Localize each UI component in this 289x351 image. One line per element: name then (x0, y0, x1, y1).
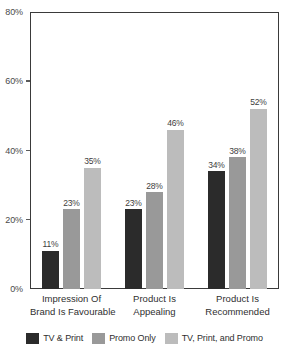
bar-chart: 0%20%40%60%80% 11%23%35%23%28%46%34%38%5… (0, 0, 289, 351)
bar-slot: 52% (250, 12, 267, 289)
legend-swatch (165, 333, 178, 344)
y-axis-tick-label: 40% (5, 145, 23, 157)
y-axis-tick: 80% (0, 6, 30, 18)
bar-value-label: 34% (208, 160, 224, 170)
y-axis-tick-label: 60% (5, 75, 23, 87)
bar-slot: 35% (84, 12, 101, 289)
bar (250, 109, 267, 289)
chart-legend: TV & PrintPromo OnlyTV, Print, and Promo (0, 329, 289, 347)
bar-value-label: 52% (250, 97, 266, 107)
category-label: Product IsRecommended (196, 292, 279, 318)
bar (146, 192, 163, 289)
bar-slot: 28% (146, 12, 163, 289)
bar (125, 209, 142, 289)
legend-item[interactable]: TV, Print, and Promo (165, 333, 263, 344)
category-label: Impression OfBrand Is Favourable (30, 292, 113, 318)
bar-slot: 34% (208, 12, 225, 289)
legend-item[interactable]: Promo Only (92, 333, 156, 344)
category-label-line: Product Is (196, 292, 279, 305)
legend-label: TV, Print, and Promo (182, 333, 263, 343)
bar (208, 171, 225, 289)
bar-value-label: 46% (167, 118, 183, 128)
bars-layer: 11%23%35%23%28%46%34%38%52% (30, 12, 279, 289)
category-label-line: Brand Is Favourable (30, 305, 113, 318)
y-axis-tick: 40% (0, 145, 30, 157)
bar-value-label: 11% (43, 239, 59, 249)
legend-swatch (92, 333, 105, 344)
bar-slot: 23% (125, 12, 142, 289)
y-axis-tick: 0% (0, 283, 30, 295)
bar-value-label: 38% (229, 146, 245, 156)
y-axis-tick-label: 80% (5, 6, 23, 18)
bar-value-label: 28% (146, 181, 162, 191)
bar (167, 130, 184, 289)
y-axis: 0%20%40%60%80% (0, 0, 30, 301)
legend-item[interactable]: TV & Print (26, 333, 83, 344)
category-label-line: Appealing (113, 305, 196, 318)
bar-slot: 11% (42, 12, 59, 289)
legend-label: Promo Only (109, 333, 156, 343)
y-axis-tick: 20% (0, 214, 30, 226)
bar (84, 168, 101, 289)
bar-value-label: 35% (84, 156, 100, 166)
legend-label: TV & Print (43, 333, 83, 343)
bar-group: 11%23%35% (30, 12, 113, 289)
bar (42, 251, 59, 289)
bar (63, 209, 80, 289)
category-label: Product IsAppealing (113, 292, 196, 318)
bar-value-label: 23% (125, 198, 141, 208)
category-label-line: Product Is (113, 292, 196, 305)
category-axis: Impression OfBrand Is FavourableProduct … (30, 292, 279, 324)
bar (229, 157, 246, 289)
category-label-line: Impression Of (30, 292, 113, 305)
y-axis-tick: 60% (0, 75, 30, 87)
bar-slot: 23% (63, 12, 80, 289)
bar-slot: 46% (167, 12, 184, 289)
y-axis-tick-label: 0% (10, 283, 23, 295)
bar-group: 23%28%46% (113, 12, 196, 289)
legend-swatch (26, 333, 39, 344)
bar-value-label: 23% (63, 198, 79, 208)
y-axis-tick-label: 20% (5, 214, 23, 226)
category-label-line: Recommended (196, 305, 279, 318)
bar-slot: 38% (229, 12, 246, 289)
bar-group: 34%38%52% (196, 12, 279, 289)
